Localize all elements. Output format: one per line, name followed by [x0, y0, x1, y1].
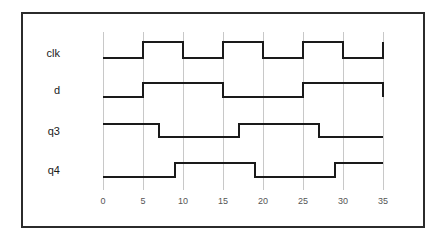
- waveform-clk: [103, 42, 383, 58]
- waveform-d: [103, 83, 383, 97]
- timing-diagram-figure: clkdq3q4 05101520253035: [0, 0, 446, 242]
- x-tick-label-5: 5: [131, 196, 155, 206]
- waveform-q4: [103, 163, 383, 177]
- signal-label-clk: clk: [14, 47, 60, 59]
- x-tick-label-25: 25: [291, 196, 315, 206]
- x-tick-label-30: 30: [331, 196, 355, 206]
- waveforms-group: [103, 42, 383, 177]
- gridlines-group: [104, 32, 384, 190]
- x-tick-label-20: 20: [251, 196, 275, 206]
- x-tick-label-0: 0: [91, 196, 115, 206]
- x-tick-label-10: 10: [171, 196, 195, 206]
- waveform-q3: [103, 124, 383, 137]
- x-tick-label-35: 35: [371, 196, 395, 206]
- signal-label-q4: q4: [14, 164, 60, 176]
- signal-label-q3: q3: [14, 125, 60, 137]
- x-tick-label-15: 15: [211, 196, 235, 206]
- signal-label-d: d: [14, 84, 60, 96]
